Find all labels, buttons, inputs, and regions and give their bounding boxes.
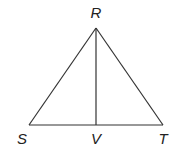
label-point-t: T	[158, 130, 169, 147]
segment-rs	[29, 28, 96, 125]
label-point-s: S	[17, 130, 27, 147]
segment-rt	[96, 28, 163, 125]
label-point-v: V	[91, 130, 103, 147]
triangle-diagram: R S V T	[0, 0, 174, 151]
label-point-r: R	[91, 4, 102, 21]
triangle-figure: R S V T	[0, 0, 174, 151]
